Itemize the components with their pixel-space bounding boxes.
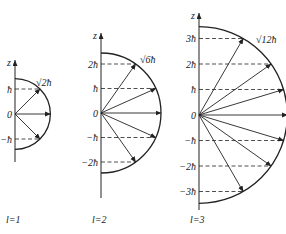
z-axis-label: z [190, 10, 195, 21]
caption: l=2 [92, 214, 107, 225]
caption: l=3 [190, 214, 205, 225]
tick-label: −3ħ [179, 186, 196, 197]
tick-label: −2ħ [81, 157, 98, 168]
tick-label: ħ [93, 83, 98, 94]
tick-label: −ħ [0, 134, 12, 145]
tick-label: 2ħ [88, 59, 98, 70]
tick-label: 2ħ [186, 59, 196, 70]
tick-label: ħ [191, 84, 196, 95]
tick-label: 3ħ [185, 33, 196, 44]
tick-label: −ħ [86, 132, 98, 143]
z-axis-label: z [92, 30, 97, 41]
tick-label: 0 [191, 110, 196, 121]
tick-label: −2ħ [179, 161, 196, 172]
z-axis-label: z [6, 57, 11, 68]
tick-label: −ħ [184, 135, 196, 146]
caption: l=1 [6, 214, 21, 225]
panel-l3: z3ħ2ħħ0−ħ−2ħ−3ħ√12ħl=3 [179, 10, 286, 225]
panel-l2: z2ħħ0−ħ−2ħ√6ħl=2 [81, 30, 161, 225]
tick-label: ħ [7, 84, 12, 95]
panel-l1: zħ0−ħ√2ħl=1 [0, 57, 51, 225]
magnitude-label: √12ħ [256, 34, 277, 45]
magnitude-label: √2ħ [36, 77, 52, 88]
momentum-vector [15, 89, 40, 114]
angular-momentum-diagram: zħ0−ħ√2ħl=1z2ħħ0−ħ−2ħ√6ħl=2z3ħ2ħħ0−ħ−2ħ−… [0, 0, 286, 234]
tick-label: 0 [93, 108, 98, 119]
tick-label: 0 [7, 109, 12, 120]
momentum-vector [15, 114, 40, 139]
magnitude-label: √6ħ [140, 54, 156, 65]
